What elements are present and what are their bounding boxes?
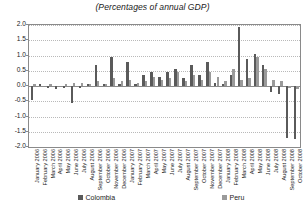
x-tick-label: July 2006 — [82, 149, 88, 173]
bar — [294, 86, 296, 139]
x-tick-label: September 2008 — [290, 149, 296, 190]
x-tick-label: October 2007 — [202, 149, 208, 183]
bar — [232, 69, 234, 86]
y-tick-label: 0.0 — [2, 82, 26, 89]
x-tick-label: April 2007 — [154, 149, 160, 174]
bar — [79, 86, 81, 88]
x-tick-label: August 2006 — [90, 149, 96, 180]
bar — [248, 78, 250, 86]
bar — [81, 83, 83, 86]
bar — [280, 81, 282, 86]
y-axis: 2.01.51.00.50.0-0.5-1.0-1.5-2.0 — [0, 24, 26, 148]
x-tick-label: November 2006 — [114, 149, 120, 189]
bar — [270, 86, 272, 92]
x-tick-label: January 2008 — [226, 149, 232, 183]
bar — [240, 80, 242, 86]
bar — [153, 77, 155, 86]
y-tick-label: -2.0 — [2, 143, 26, 150]
x-tick-label: February 2008 — [234, 149, 240, 185]
bar — [238, 27, 240, 86]
x-tick-label: June 2008 — [266, 149, 272, 175]
bar — [185, 81, 187, 86]
bar — [113, 78, 115, 86]
bar — [209, 72, 211, 86]
x-tick-label: October 2006 — [106, 149, 112, 183]
x-tick-label: July 2007 — [178, 149, 184, 173]
x-tick-label: May 2007 — [162, 149, 168, 174]
bar — [296, 86, 298, 89]
x-tick-label: December 2007 — [218, 149, 224, 189]
legend-item-colombia[interactable]: Colombia — [78, 194, 115, 201]
x-tick-label: May 2006 — [66, 149, 72, 174]
y-tick-label: 0.5 — [2, 67, 26, 74]
bar — [47, 86, 49, 88]
bar — [272, 80, 274, 86]
x-tick-label: February 2007 — [138, 149, 144, 185]
chart-title: (Percentages of annual GDP) — [0, 2, 305, 12]
bar — [39, 84, 41, 86]
bar — [286, 86, 288, 138]
bar — [121, 81, 123, 86]
bar — [97, 81, 99, 86]
x-tick-label: April 2008 — [250, 149, 256, 174]
x-tick-label: March 2006 — [51, 149, 57, 179]
y-tick-label: -1.0 — [2, 113, 26, 120]
x-tick-label: March 2007 — [146, 149, 152, 179]
x-tick-label: March 2008 — [242, 149, 248, 179]
bar — [145, 81, 147, 86]
x-tick-label: January 2006 — [35, 149, 41, 183]
bar — [278, 86, 280, 94]
x-tick-label: January 2007 — [130, 149, 136, 183]
bar — [288, 86, 290, 88]
x-tick-label: April 2006 — [58, 149, 64, 174]
bar — [89, 84, 91, 86]
y-tick-label: 2.0 — [2, 21, 26, 28]
bar — [169, 78, 171, 86]
x-tick-label: September 2006 — [98, 149, 104, 190]
bar — [65, 84, 67, 86]
legend-swatch-icon — [222, 195, 227, 200]
x-tick-label: October 2008 — [298, 149, 304, 183]
bar — [129, 80, 131, 86]
legend-item-peru[interactable]: Peru — [222, 194, 244, 201]
chart-legend: ColombiaPeru — [0, 194, 305, 206]
bar — [73, 83, 75, 86]
bar — [137, 83, 139, 86]
y-tick-label: 1.5 — [2, 36, 26, 43]
x-tick-label: September 2007 — [194, 149, 200, 190]
bar — [55, 86, 57, 89]
bar — [256, 57, 258, 86]
legend-label: Colombia — [86, 194, 116, 201]
x-tick-label: July 2008 — [274, 149, 280, 173]
bars-layer — [29, 25, 300, 147]
x-tick-label: November 2007 — [210, 149, 216, 189]
bar — [31, 86, 33, 100]
y-tick-label: -1.5 — [2, 128, 26, 135]
bar — [161, 80, 163, 86]
x-tick-label: December 2006 — [122, 149, 128, 189]
x-axis: January 2006February 2006March 2006April… — [28, 149, 301, 193]
legend-swatch-icon — [78, 195, 83, 200]
y-tick-label: -0.5 — [2, 97, 26, 104]
x-tick-label: August 2007 — [186, 149, 192, 180]
bar — [49, 84, 51, 86]
bar — [71, 86, 73, 103]
bar — [33, 84, 35, 86]
x-tick-label: June 2007 — [170, 149, 176, 175]
bar — [105, 84, 107, 86]
y-tick-label: 1.0 — [2, 52, 26, 59]
x-tick-label: August 2008 — [282, 149, 288, 180]
x-tick-label: February 2006 — [43, 149, 49, 185]
chart-container: (Percentages of annual GDP) 2.01.51.00.5… — [0, 0, 305, 211]
bar — [177, 72, 179, 86]
bar — [193, 75, 195, 86]
x-tick-label: June 2006 — [74, 149, 80, 175]
plot-area — [28, 24, 301, 148]
bar — [217, 77, 219, 86]
gridline — [29, 147, 300, 148]
bar — [63, 86, 65, 88]
legend-label: Peru — [230, 194, 245, 201]
x-tick-label: May 2008 — [258, 149, 264, 174]
bar — [224, 81, 226, 86]
bar — [264, 69, 266, 86]
